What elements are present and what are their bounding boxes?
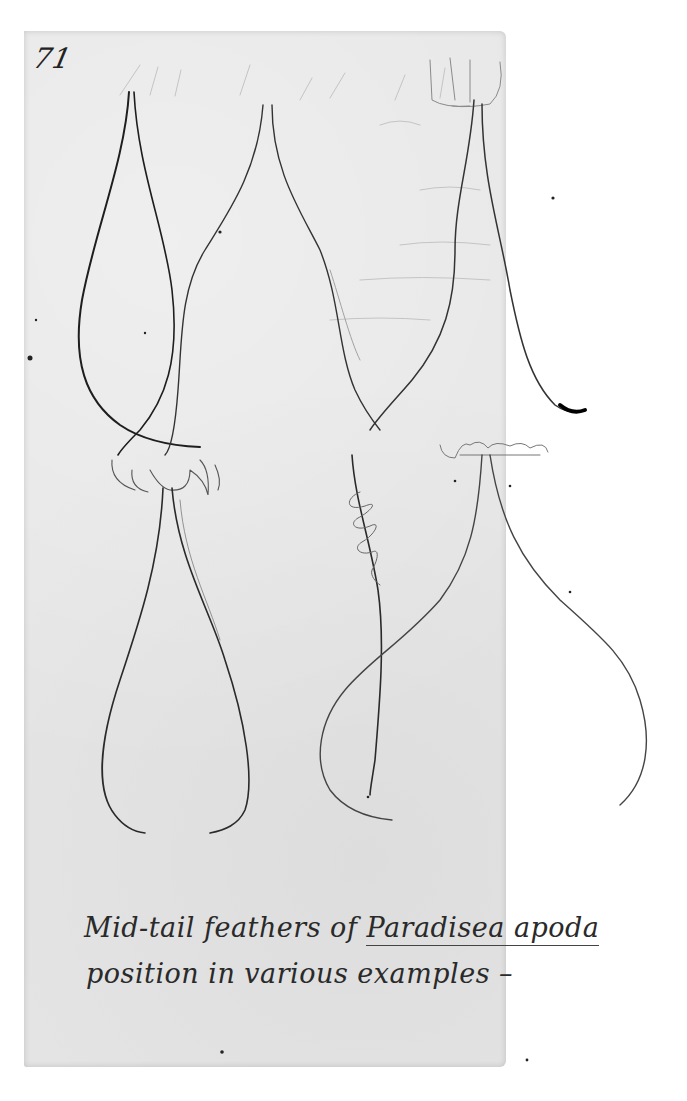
tuft-top-right <box>430 58 501 107</box>
sketch-flask-feather-pair <box>165 105 380 455</box>
tuft-bottom-right <box>440 442 548 458</box>
page-number: 71 <box>30 42 75 75</box>
species-name: Paradisea apoda <box>366 912 599 946</box>
caption-line-1: Mid-tail feathers of Paradisea apoda <box>84 912 599 943</box>
caption-prefix: Mid-tail feathers of <box>84 912 366 943</box>
sketch-spiral-feather <box>349 455 381 795</box>
tuft-bottom-left <box>112 460 220 495</box>
caption-line-2: position in various examples – <box>86 958 513 989</box>
sketch-teardrop-feather-pair <box>79 92 200 455</box>
sketch-hooked-feather-pair <box>370 100 585 430</box>
sketch-heart-feather-pair <box>102 488 249 833</box>
bleed-through-text <box>120 65 490 320</box>
